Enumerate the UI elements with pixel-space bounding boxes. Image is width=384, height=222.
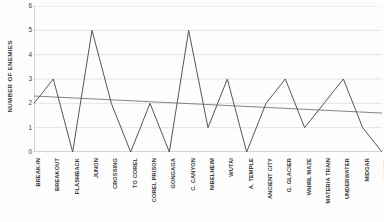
- y-axis-title: NUMBER OF ENEMIES: [0, 0, 18, 152]
- y-tick-label: 5: [28, 27, 32, 34]
- y-tick-label: 4: [28, 51, 32, 58]
- x-tick-label: MIDGAR: [365, 158, 371, 182]
- x-tick-label: CROSSING: [113, 158, 119, 189]
- x-tick-label: WUTAI: [229, 158, 235, 177]
- x-tick-label: COREL PRISON: [152, 158, 158, 202]
- y-axis-tick-labels: 6543210: [18, 0, 34, 152]
- x-tick-label: MATERIA TRAIN: [326, 158, 332, 203]
- enemy-count-series: [34, 30, 382, 152]
- x-tick-label: UNDERWATER: [345, 158, 351, 199]
- x-tick-label: A. TEMPLE: [249, 158, 255, 189]
- x-tick-label: WHIRL MAZE: [307, 158, 313, 195]
- x-axis-tick-labels: BREAK-INBREAKOUTFLASHBACKJUNONCROSSINGTO…: [34, 154, 382, 222]
- x-tick-label: NIBELHEIM: [210, 158, 216, 190]
- y-axis-title-text: NUMBER OF ENEMIES: [6, 40, 13, 112]
- x-tick-label: BREAKOUT: [55, 158, 61, 191]
- plot-svg: [34, 6, 382, 152]
- x-tick-label: G. GLACIER: [287, 158, 293, 192]
- y-tick-label: 1: [28, 124, 32, 131]
- y-tick-label: 0: [28, 149, 32, 156]
- trendline-series: [34, 96, 382, 113]
- x-tick-label: TO COREL: [133, 158, 139, 188]
- x-tick-label: BREAK-IN: [36, 158, 42, 187]
- plot-area: [34, 6, 382, 152]
- x-tick-label: FLASHBACK: [75, 158, 81, 194]
- y-tick-label: 2: [28, 100, 32, 107]
- x-tick-label: JUNON: [94, 158, 100, 178]
- enemy-count-line-chart: NUMBER OF ENEMIES 6543210 BREAK-INBREAKO…: [0, 0, 384, 222]
- y-tick-label: 3: [28, 76, 32, 83]
- x-tick-label: ANCIENT CITY: [268, 158, 274, 199]
- x-tick-label: C. CANYON: [191, 158, 197, 191]
- y-tick-label: 6: [28, 3, 32, 10]
- x-tick-label: GONGAGA: [171, 158, 177, 189]
